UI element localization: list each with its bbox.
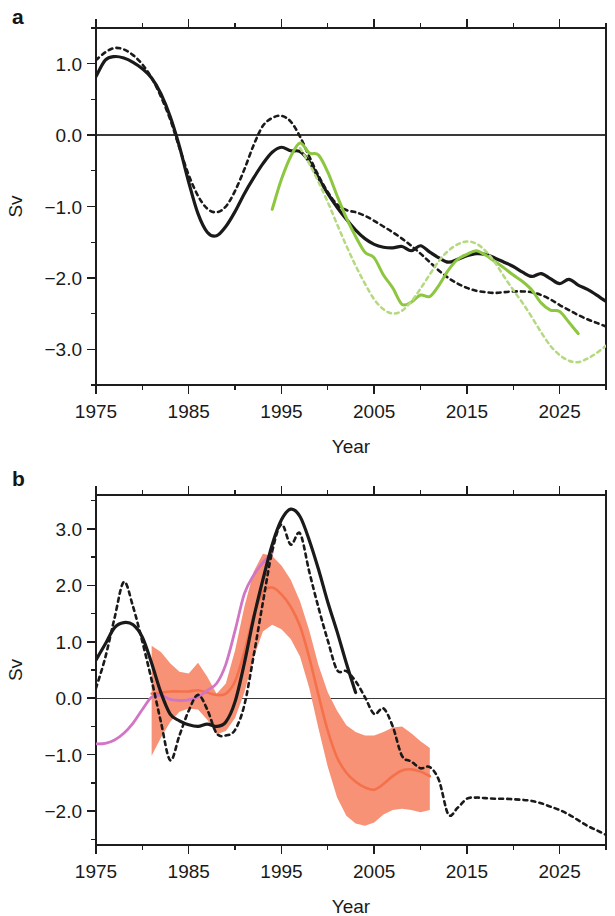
panel-b: b 1975198519952005201520253.02.01.00.0−1… [0, 460, 615, 916]
x-tick-label: 2025 [538, 401, 580, 422]
x-tick-label: 1995 [260, 401, 302, 422]
y-axis-title: Sv [5, 658, 26, 681]
y-tick-label: 2.0 [56, 575, 82, 596]
y-tick-label: −1.0 [44, 745, 82, 766]
y-axis-title: Sv [5, 195, 26, 218]
x-axis-title: Year [332, 896, 371, 916]
y-tick-label: 0.0 [56, 688, 82, 709]
data-layer [96, 48, 606, 362]
x-tick-label: 1985 [168, 401, 210, 422]
y-tick-label: −2.0 [44, 801, 82, 822]
y-tick-label: −3.0 [44, 339, 82, 360]
y-tick-label: −1.0 [44, 197, 82, 218]
y-tick-label: 0.0 [56, 125, 82, 146]
panel-b-plot: 1975198519952005201520253.02.01.00.0−1.0… [0, 460, 615, 916]
panel-a-plot: 1975198519952005201520251.00.0−1.0−2.0−3… [0, 0, 615, 460]
series-black-dashed [96, 48, 606, 327]
y-tick-label: −2.0 [44, 268, 82, 289]
x-tick-label: 1975 [75, 861, 117, 882]
x-tick-label: 2015 [446, 861, 488, 882]
x-tick-label: 1975 [75, 401, 117, 422]
series-green-solid [272, 143, 578, 334]
series-black-solid [96, 56, 606, 301]
x-axis-title: Year [332, 436, 371, 457]
x-tick-label: 2025 [538, 861, 580, 882]
x-tick-label: 2005 [353, 401, 395, 422]
data-layer [96, 509, 606, 835]
panel-a: a 1975198519952005201520251.00.0−1.0−2.0… [0, 0, 615, 460]
x-tick-label: 1995 [260, 861, 302, 882]
y-tick-label: 3.0 [56, 519, 82, 540]
y-tick-label: 1.0 [56, 54, 82, 75]
x-tick-label: 2005 [353, 861, 395, 882]
y-tick-label: 1.0 [56, 632, 82, 653]
x-tick-label: 2015 [446, 401, 488, 422]
x-tick-label: 1985 [168, 861, 210, 882]
figure-root: a 1975198519952005201520251.00.0−1.0−2.0… [0, 0, 615, 916]
series-green-dashed [300, 148, 606, 362]
